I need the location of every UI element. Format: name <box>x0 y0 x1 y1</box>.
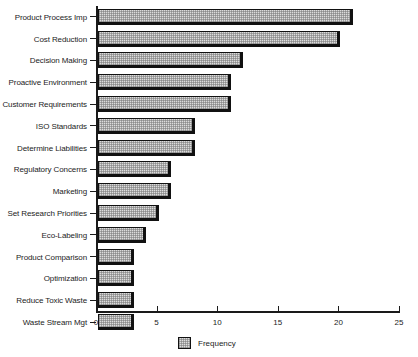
x-tick-label: 20 <box>334 318 343 327</box>
category-tick <box>90 191 96 192</box>
category-label: Eco-Labeling <box>42 230 88 239</box>
bar <box>98 31 340 47</box>
category-label: Reduce Toxic Waste <box>16 296 87 305</box>
bar-row: ISO Standards <box>0 115 418 137</box>
bar <box>98 52 243 68</box>
category-label: Marketing <box>53 187 87 196</box>
bar <box>98 314 134 330</box>
category-label: Proactive Environment <box>9 78 87 87</box>
category-tick <box>90 147 96 148</box>
category-tick <box>90 278 96 279</box>
bar-row: Proactive Environment <box>0 71 418 93</box>
x-tick <box>338 306 339 313</box>
x-tick <box>96 306 97 313</box>
bar <box>98 161 171 177</box>
bar <box>98 227 146 243</box>
category-label: Regulatory Concerns <box>14 165 87 174</box>
category-tick <box>90 300 96 301</box>
bar-row: Set Research Priorities <box>0 202 418 224</box>
bar <box>98 140 195 156</box>
category-tick <box>90 213 96 214</box>
bar-row: Regulatory Concerns <box>0 159 418 181</box>
bar-row: Waste Stream Mgt <box>0 311 418 333</box>
x-tick-label: 25 <box>395 318 404 327</box>
bar-row: Product Process Imp <box>0 6 418 28</box>
category-tick <box>90 16 96 17</box>
bar <box>98 270 134 286</box>
bar-row: Reduce Toxic Waste <box>0 289 418 311</box>
category-label: Optimization <box>44 274 87 283</box>
category-label: Determine Liabilities <box>17 143 87 152</box>
x-tick-label: 15 <box>273 318 282 327</box>
bar <box>98 74 231 90</box>
category-tick <box>90 82 96 83</box>
plot-area: Product Process ImpCost ReductionDecisio… <box>0 0 418 357</box>
bar <box>98 249 134 265</box>
category-label: Set Research Priorities <box>7 209 87 218</box>
x-tick <box>399 306 400 313</box>
x-tick <box>217 306 218 313</box>
bar-row: Determine Liabilities <box>0 137 418 159</box>
bar <box>98 292 134 308</box>
bar-rows: Product Process ImpCost ReductionDecisio… <box>0 6 418 333</box>
category-tick <box>90 60 96 61</box>
category-label: ISO Standards <box>36 121 87 130</box>
x-tick-label: 0 <box>94 318 98 327</box>
bar-row: Optimization <box>0 268 418 290</box>
bar <box>98 96 231 112</box>
bar <box>98 183 171 199</box>
bar-row: Cost Reduction <box>0 28 418 50</box>
category-tick <box>90 125 96 126</box>
bar <box>98 205 159 221</box>
category-label: Waste Stream Mgt <box>23 318 87 327</box>
category-tick <box>90 169 96 170</box>
category-tick <box>90 256 96 257</box>
bar-row: Marketing <box>0 180 418 202</box>
category-label: Decision Making <box>30 56 87 65</box>
category-label: Cost Reduction <box>34 34 87 43</box>
bar-row: Product Comparison <box>0 246 418 268</box>
x-tick-label: 10 <box>213 318 222 327</box>
legend-label-frequency: Frequency <box>198 339 236 348</box>
category-label: Product Process Imp <box>15 12 87 21</box>
category-tick <box>90 234 96 235</box>
x-tick-label: 5 <box>154 318 158 327</box>
bar-row: Eco-Labeling <box>0 224 418 246</box>
bar-row: Customer Requirements <box>0 93 418 115</box>
category-label: Customer Requirements <box>2 100 87 109</box>
category-label: Product Comparison <box>16 252 87 261</box>
legend-swatch-frequency <box>178 337 191 349</box>
bar <box>98 118 195 134</box>
bar-row: Decision Making <box>0 50 418 72</box>
frequency-bar-chart: Product Process ImpCost ReductionDecisio… <box>0 0 418 357</box>
category-tick <box>90 104 96 105</box>
chart-legend: Frequency <box>178 337 236 349</box>
x-tick <box>157 306 158 313</box>
category-tick <box>90 38 96 39</box>
bar <box>98 9 353 25</box>
x-tick <box>278 306 279 313</box>
